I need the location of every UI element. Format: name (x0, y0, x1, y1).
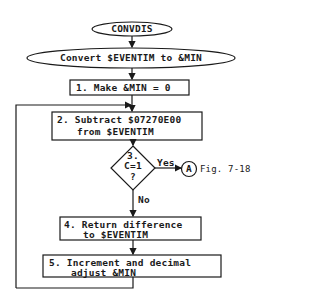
decision-yes-label: Yes (157, 157, 175, 168)
start-label: CONVDIS (111, 23, 152, 34)
step-2-label-line1: 2. Subtract $07270E00 (57, 114, 181, 125)
step-2-label-line2: from $EVENTIM (77, 126, 154, 137)
step-1-label: 1. Make &MIN = 0 (76, 82, 171, 93)
decision-3-label-line2: C=1 (124, 160, 142, 171)
connector-reference: Fig. 7-18 (200, 164, 251, 175)
connector-a-label: A (186, 163, 192, 174)
decision-3-label-line3: ? (130, 171, 136, 182)
step-4-label-line2: to $EVENTIM (83, 229, 148, 240)
title-label: Convert $EVENTIM to &MIN (60, 52, 202, 63)
decision-no-label: No (138, 194, 150, 205)
step-5-label-line2: adjust &MIN (71, 267, 136, 278)
